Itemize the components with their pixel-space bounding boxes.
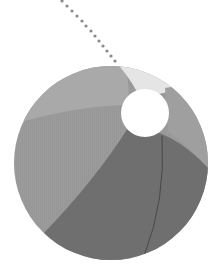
- beach-ball-svg: [0, 0, 224, 280]
- ball-valve-hole: [121, 89, 169, 137]
- ball-body: [0, 0, 224, 280]
- beach-ball-illustration: Grayscale beach ball with a dotted traje…: [0, 0, 224, 280]
- dotted-trail-icon: [60, 0, 116, 63]
